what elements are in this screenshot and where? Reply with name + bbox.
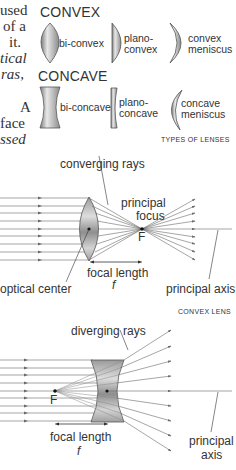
convex-lens-caption: CONVEX LENS <box>178 308 231 315</box>
focus-letter: F <box>138 230 145 244</box>
plano-convex-lens-shape <box>112 23 121 63</box>
convex-lens-diagram <box>0 156 232 282</box>
illustration-canvas <box>0 0 236 470</box>
principal-focus-label-line2: focus <box>136 209 165 223</box>
diverging-rays-label: diverging rays <box>71 324 146 338</box>
concave-lens-diagram <box>0 330 232 451</box>
focal-length-symbol: f <box>77 444 80 458</box>
concave-meniscus-label-line2: meniscus <box>181 109 225 120</box>
principal-axis-label: principal axis <box>166 282 235 296</box>
principal-axis-label-line1: principal <box>189 434 234 448</box>
focal-length-label: focal length <box>87 266 148 280</box>
bi-concave-lens-shape <box>40 87 60 128</box>
converging-rays-label: converging rays <box>60 157 145 171</box>
focal-length-symbol: f <box>112 278 115 292</box>
types-of-lenses-caption: TYPES OF LENSES <box>161 136 230 143</box>
diverging-rays <box>108 330 171 451</box>
bi-convex-label: bi-convex <box>59 38 104 49</box>
focus-letter: F <box>50 393 57 407</box>
plano-concave-lens-shape <box>111 88 117 128</box>
plano-convex-label-line2: convex <box>124 44 157 55</box>
convex-meniscus-lens-shape <box>170 23 181 63</box>
concave-heading: CONCAVE <box>38 68 108 84</box>
concave-center-dot <box>105 389 108 392</box>
principal-axis-label-line2: axis <box>201 448 222 462</box>
bi-concave-label: bi-concave <box>60 102 111 113</box>
optical-center-label: optical center <box>0 282 71 296</box>
bi-convex-lens-shape <box>41 23 59 63</box>
incoming-parallel-rays <box>0 359 101 423</box>
convex-heading: CONVEX <box>40 4 100 20</box>
convex-meniscus-label-line2: meniscus <box>188 44 232 55</box>
principal-axis-leader <box>211 392 218 432</box>
principal-axis-leader <box>209 230 218 279</box>
focal-length-label: focal length <box>50 430 111 444</box>
incoming-parallel-rays <box>0 197 89 262</box>
plano-concave-label-line2: concave <box>119 108 158 119</box>
optical-center-leader <box>66 229 89 282</box>
principal-focus-label-line1: principal <box>121 196 166 210</box>
